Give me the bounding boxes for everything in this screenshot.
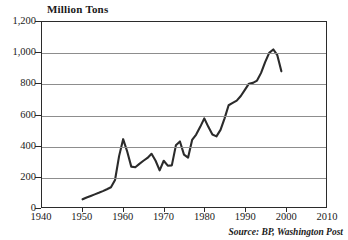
y-axis-tick-mark	[35, 208, 41, 209]
x-axis-tick-label: 1980	[184, 212, 224, 223]
gridline-y-800	[42, 84, 326, 85]
y-axis-tick-label: 1,000	[12, 47, 36, 58]
y-axis-tick-label: 600	[20, 110, 36, 121]
x-axis-tick-label: 1960	[103, 212, 143, 223]
x-axis-tick-label: 1950	[62, 212, 102, 223]
y-axis-tick-label: 1,200	[12, 16, 36, 27]
chart-title: Million Tons	[47, 3, 108, 15]
gridline-y-600	[42, 116, 326, 117]
y-axis-tick-mark	[35, 83, 41, 84]
x-axis-tick-mark	[204, 208, 205, 212]
y-axis-tick-mark	[35, 21, 41, 22]
series-line-million-tons	[42, 22, 326, 207]
x-axis-tick-mark	[164, 208, 165, 212]
y-axis-tick-mark	[35, 146, 41, 147]
y-axis-tick-label: 800	[20, 78, 36, 89]
x-axis-tick-label: 1970	[144, 212, 184, 223]
x-axis-tick-mark	[82, 208, 83, 212]
y-axis-tick-mark	[35, 52, 41, 53]
y-axis-tick-mark	[35, 115, 41, 116]
y-axis-tick-label: 400	[20, 141, 36, 152]
y-axis-tick-label: 200	[20, 172, 36, 183]
x-axis-tick-label: 1940	[21, 212, 61, 223]
x-axis-tick-mark	[286, 208, 287, 212]
chart-figure: Million Tons 02004006008001,0001,2001940…	[0, 0, 348, 240]
plot-area	[41, 21, 327, 208]
x-axis-tick-label: 2000	[266, 212, 306, 223]
gridline-y-200	[42, 178, 326, 179]
gridline-y-400	[42, 147, 326, 148]
x-axis-tick-mark	[245, 208, 246, 212]
x-axis-tick-mark	[123, 208, 124, 212]
gridline-y-1000	[42, 53, 326, 54]
x-axis-tick-label: 2010	[307, 212, 347, 223]
x-axis-tick-label: 1990	[225, 212, 265, 223]
source-attribution: Source: BP, Washington Post	[228, 227, 343, 237]
y-axis-tick-mark	[35, 177, 41, 178]
